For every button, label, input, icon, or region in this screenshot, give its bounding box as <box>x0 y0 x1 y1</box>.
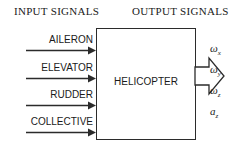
output-symbol-glyph: ω <box>210 63 218 75</box>
input-label-elevator: ELEVATOR <box>3 62 93 73</box>
output-symbol-subscript: z <box>218 91 221 99</box>
arrow-right-icon <box>26 74 96 83</box>
output-symbol-omega-x: ωx <box>210 42 221 57</box>
output-symbol-a-z: az <box>210 105 218 120</box>
output-signals-heading: OUTPUT SIGNALS <box>132 5 229 17</box>
helicopter-block-label: HELICOPTER <box>96 76 196 87</box>
diagram-canvas: INPUT SIGNALS OUTPUT SIGNALS HELICOPTER … <box>0 0 240 148</box>
output-symbol-subscript: x <box>218 49 221 57</box>
output-symbol-omega-z: ωz <box>210 84 221 99</box>
arrow-right-icon <box>26 46 96 55</box>
output-symbol-glyph: ω <box>210 84 218 96</box>
output-symbol-omega-y: ωy <box>210 63 221 78</box>
arrow-right-icon <box>26 101 96 110</box>
output-symbol-subscript: y <box>218 70 221 78</box>
output-symbol-glyph: ω <box>210 42 218 54</box>
input-label-aileron: AILERON <box>3 34 93 45</box>
input-label-collective: COLLECTIVE <box>3 116 93 127</box>
arrow-right-icon <box>26 128 96 137</box>
input-signals-heading: INPUT SIGNALS <box>14 5 99 17</box>
input-label-rudder: RUDDER <box>3 89 93 100</box>
output-symbol-subscript: z <box>216 112 219 120</box>
